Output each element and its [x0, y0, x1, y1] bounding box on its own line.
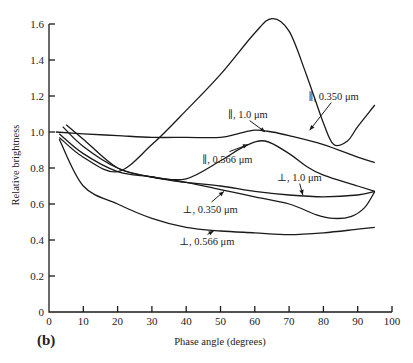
x-tick-label: 30	[146, 315, 158, 327]
y-tick-label: 0.8	[30, 162, 44, 174]
x-tick-label: 60	[249, 315, 261, 327]
x-axis-title: Phase angle (degrees)	[174, 336, 266, 348]
y-tick-label: 0.6	[30, 198, 44, 210]
panel-label: (b)	[37, 332, 55, 349]
y-tick-label: 0.4	[30, 234, 44, 246]
chart: 00.20.40.60.81.01.21.41.6010203040506070…	[0, 0, 413, 363]
curve-label: ⊥, 1.0 μm	[277, 172, 322, 183]
axes: 00.20.40.60.81.01.21.41.6010203040506070…	[30, 18, 401, 327]
x-tick-label: 0	[46, 315, 52, 327]
x-tick-label: 70	[284, 315, 296, 327]
x-tick-label: 100	[384, 315, 401, 327]
y-tick-label: 1.6	[30, 18, 44, 30]
x-tick-label: 50	[215, 315, 227, 327]
curve-label: ∥, 1.0 μm	[228, 109, 268, 120]
curve-label: ∥, 0.566 μm	[202, 154, 252, 165]
y-tick-label: 0.2	[30, 270, 44, 282]
x-tick-label: 20	[112, 315, 124, 327]
x-tick-label: 40	[181, 315, 193, 327]
x-tick-label: 80	[318, 315, 330, 327]
x-tick-label: 10	[78, 315, 90, 327]
x-tick-label: 90	[352, 315, 364, 327]
curves	[56, 19, 375, 235]
curve-label: ∥, 0.350 μm	[309, 91, 359, 102]
y-axis-title: Relative brightness	[10, 125, 21, 206]
y-tick-label: 0	[39, 306, 45, 318]
y-tick-label: 1.0	[30, 126, 44, 138]
arrowhead-icon	[260, 127, 265, 132]
arrowhead-icon	[242, 144, 247, 148]
y-tick-label: 1.2	[30, 90, 44, 102]
curve-label: ⊥, 0.350 μm	[183, 204, 238, 215]
y-tick-label: 1.4	[30, 54, 44, 66]
label-arrow	[310, 103, 332, 131]
curve-label: ⊥, 0.566 μm	[179, 236, 234, 247]
